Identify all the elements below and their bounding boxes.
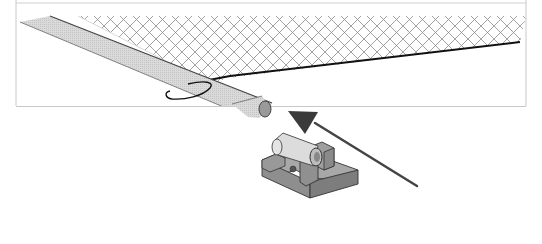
screw-hole — [290, 166, 296, 172]
assembly-illustration — [0, 0, 542, 244]
